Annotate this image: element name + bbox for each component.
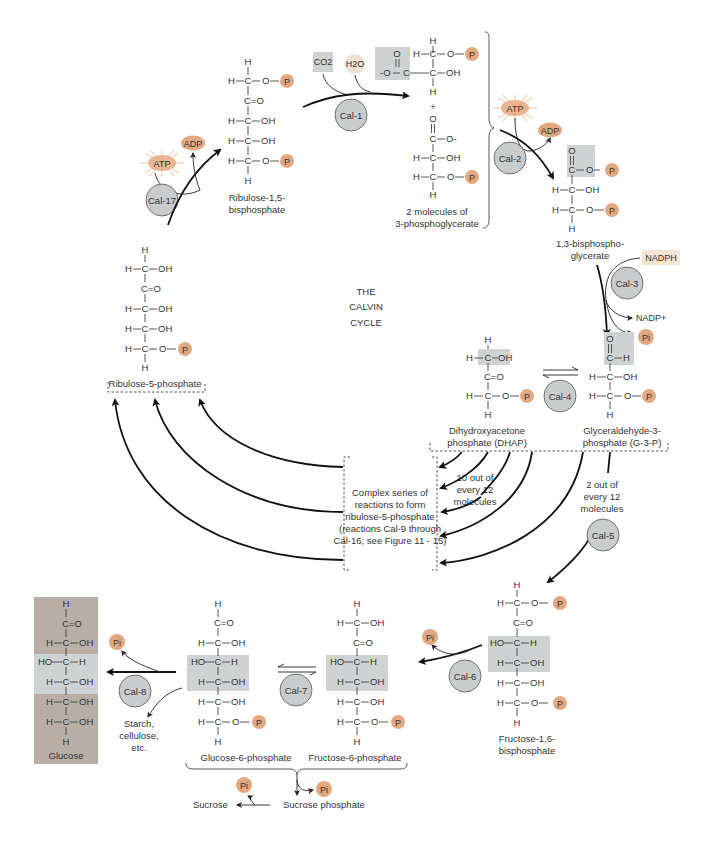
svg-text:glycerate: glycerate — [571, 250, 610, 261]
svg-text:C: C — [354, 696, 361, 707]
svg-text:etc.: etc. — [131, 742, 146, 753]
svg-text:C: C — [215, 637, 222, 648]
hexose-brace — [186, 763, 407, 774]
svg-text:H: H — [142, 244, 149, 255]
pi-cal3: Pi — [638, 329, 654, 345]
svg-text:bisphosphate: bisphosphate — [229, 204, 286, 215]
svg-text:O: O — [568, 145, 575, 156]
svg-text:C: C — [514, 637, 521, 648]
svg-text:O: O — [624, 390, 631, 401]
svg-text:C: C — [430, 171, 437, 182]
svg-text:CYCLE: CYCLE — [350, 317, 382, 328]
svg-text:OH: OH — [585, 184, 599, 195]
svg-text:Glucose: Glucose — [49, 750, 84, 761]
svg-text:P: P — [256, 718, 262, 728]
svg-text:H: H — [125, 343, 132, 354]
svg-text:O: O — [586, 164, 593, 175]
svg-text:H: H — [413, 48, 420, 59]
svg-text:O-: O- — [446, 133, 457, 144]
svg-text:C: C — [430, 152, 437, 163]
adp-cal17: ADP — [181, 136, 205, 151]
svg-text:Fructose-1,6-: Fructose-1,6- — [499, 733, 556, 744]
svg-text:O: O — [262, 155, 269, 166]
svg-text:H: H — [337, 696, 344, 707]
svg-text:C: C — [142, 303, 149, 314]
molecule-g3p: O C H H C OH H C O P H Glyceraldehyde-3-… — [583, 332, 662, 448]
svg-text:H: H — [485, 409, 492, 420]
svg-text:C: C — [215, 676, 222, 687]
svg-text:OH: OH — [158, 323, 172, 334]
svg-text:1,3-bisphospho-: 1,3-bisphospho- — [556, 238, 624, 249]
nadp-label: NADP+ — [636, 313, 666, 323]
enzyme-cal4: Cal-4 — [544, 380, 576, 412]
svg-text:H: H — [497, 657, 504, 668]
svg-text:P: P — [469, 173, 475, 183]
svg-text:C: C — [63, 637, 70, 648]
svg-text:ADP: ADP — [184, 139, 203, 149]
svg-text:H: H — [337, 676, 344, 687]
svg-text:H: H — [370, 656, 377, 667]
svg-text:C: C — [569, 184, 576, 195]
starch-label: Starch, cellulose, etc. — [119, 718, 159, 753]
svg-text:Cal-17: Cal-17 — [148, 195, 176, 206]
svg-text:H: H — [63, 598, 70, 609]
enzyme-cal2: Cal-2 — [494, 142, 526, 174]
svg-text:OH: OH — [79, 716, 93, 727]
molecule-fructose-6-phosphate: H H C OH C=O HO C H H C OH H C OH H C O — [309, 598, 405, 763]
svg-text:H: H — [125, 303, 132, 314]
svg-text:H: H — [354, 598, 361, 609]
svg-text:ATP: ATP — [154, 159, 171, 169]
svg-text:C: C — [607, 352, 614, 363]
complex-series-box: Complex series of reactions to form ribu… — [334, 457, 447, 570]
molecule-fructose-1-6-bisphosphate: H H C O P C=O HO C H H C OH H C OH H C — [488, 579, 567, 756]
svg-text:H: H — [466, 352, 473, 363]
svg-text:C=O: C=O — [214, 617, 234, 628]
sucrose-phosphate-label: Sucrose phosphate — [283, 799, 365, 810]
svg-text:H: H — [245, 56, 252, 67]
svg-text:H: H — [215, 736, 222, 747]
svg-text:P: P — [395, 718, 401, 728]
svg-text:C=O: C=O — [62, 618, 82, 629]
svg-text:P: P — [284, 157, 290, 167]
svg-text:O: O — [429, 113, 436, 124]
pi-cal8: Pi — [109, 634, 125, 650]
enzyme-cal5: Cal-5 — [587, 519, 619, 551]
svg-text:Complex series of: Complex series of — [352, 487, 428, 498]
svg-text:C=O: C=O — [513, 617, 533, 628]
svg-text:P: P — [557, 599, 563, 609]
svg-text:O: O — [232, 716, 239, 727]
svg-text:HO: HO — [330, 656, 344, 667]
svg-text:C: C — [569, 164, 576, 175]
svg-text:HO: HO — [38, 656, 52, 667]
svg-text:OH: OH — [370, 696, 384, 707]
svg-text:Pi: Pi — [320, 785, 328, 795]
svg-text:C: C — [514, 657, 521, 668]
svg-text:C: C — [430, 67, 437, 78]
svg-text:Dihydroxyacetone: Dihydroxyacetone — [449, 425, 525, 436]
svg-text:ribulose-5-phosphate: ribulose-5-phosphate — [345, 511, 434, 522]
svg-text:H: H — [552, 204, 559, 215]
svg-text:H2O: H2O — [346, 59, 365, 69]
svg-text:Cal-16; see Figure 11 - 15): Cal-16; see Figure 11 - 15) — [334, 535, 447, 546]
adp-cal2: ADP — [538, 123, 562, 138]
svg-text:C: C — [514, 677, 521, 688]
enzyme-cal8: Cal-8 — [119, 675, 151, 707]
svg-text:phosphate (DHAP): phosphate (DHAP) — [447, 437, 527, 448]
svg-text:H: H — [79, 656, 86, 667]
svg-text:H: H — [46, 637, 53, 648]
svg-text:H: H — [142, 362, 149, 373]
svg-text:H: H — [530, 637, 537, 648]
svg-text:H: H — [125, 263, 132, 274]
svg-text:C: C — [607, 390, 614, 401]
svg-text:H: H — [589, 390, 596, 401]
svg-text:Cal-7: Cal-7 — [285, 685, 308, 696]
svg-text:H: H — [125, 323, 132, 334]
svg-text:C: C — [215, 656, 222, 667]
svg-text:H: H — [497, 697, 504, 708]
svg-text:C: C — [354, 656, 361, 667]
svg-text:Ribulose-1,5-: Ribulose-1,5- — [229, 192, 286, 203]
svg-text:H: H — [337, 617, 344, 628]
svg-text:C: C — [354, 716, 361, 727]
svg-text:H: H — [228, 135, 235, 146]
molecule-ribulose-1-5-bisphosphate: H H C O P C=O H C OH H C OH H C O P H Ri… — [228, 56, 294, 215]
